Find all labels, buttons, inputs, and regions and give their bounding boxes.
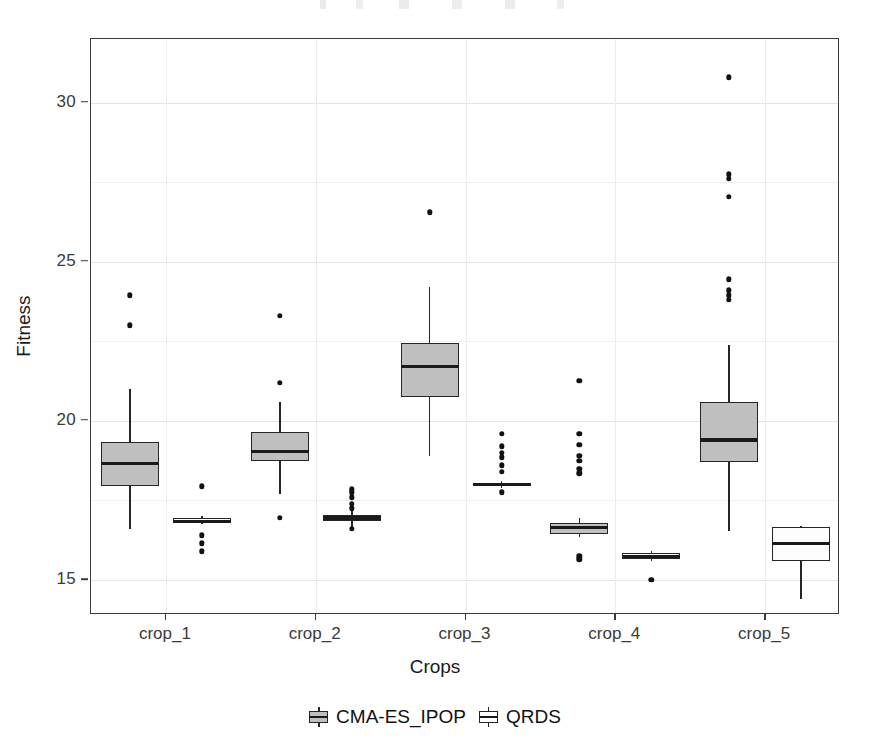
boxplot-figure: Fitness 15202530 crop_1crop_2crop_3crop_… (0, 0, 870, 756)
plot-panel (90, 38, 839, 614)
legend-box-icon (309, 707, 328, 727)
x-tick-mark (764, 614, 766, 620)
y-tick-label: 15 (56, 569, 76, 589)
y-tick-label: 20 (56, 410, 76, 430)
legend: CMA-ES_IPOPQRDS (0, 706, 870, 728)
y-tick-mark (81, 578, 88, 580)
y-tick-mark (81, 101, 88, 103)
y-tick-label: 30 (56, 92, 76, 112)
legend-box-icon (479, 707, 498, 727)
whisker-lower (800, 561, 802, 599)
y-tick-label: 25 (56, 251, 76, 271)
x-axis-label: Crops (0, 656, 870, 678)
x-axis: crop_1crop_2crop_3crop_4crop_5 (90, 614, 839, 660)
x-tick-mark (165, 614, 167, 620)
legend-label: QRDS (506, 706, 561, 728)
x-tick-mark (465, 614, 467, 620)
boxplot-crop_5-qrds[interactable] (91, 39, 838, 613)
x-tick-label-crop_4: crop_4 (588, 624, 640, 644)
y-axis: Fitness 15202530 (0, 0, 90, 756)
median-line (772, 542, 830, 545)
x-tick-label-crop_5: crop_5 (738, 624, 790, 644)
x-tick-label-crop_2: crop_2 (289, 624, 341, 644)
y-tick-mark (81, 419, 88, 421)
y-axis-label: Fitness (13, 295, 35, 356)
legend-item-qrds[interactable]: QRDS (479, 706, 561, 728)
x-tick-label-crop_1: crop_1 (139, 624, 191, 644)
y-tick-mark (81, 260, 88, 262)
legend-item-cma-es-ipop[interactable]: CMA-ES_IPOP (309, 706, 466, 728)
scan-artifact (300, 0, 630, 9)
x-tick-mark (315, 614, 317, 620)
x-tick-label-crop_3: crop_3 (439, 624, 491, 644)
x-tick-mark (614, 614, 616, 620)
legend-label: CMA-ES_IPOP (336, 706, 466, 728)
